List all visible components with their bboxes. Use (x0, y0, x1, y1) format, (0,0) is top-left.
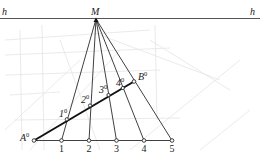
point-4 (142, 139, 146, 143)
point-4-0 (121, 86, 124, 89)
label-4: 4 (142, 143, 147, 154)
point-1 (60, 139, 64, 143)
point-B0 (132, 80, 136, 84)
horizon-label-right: h (250, 6, 255, 17)
background-sketch (5, 25, 250, 150)
perspective-diagram: h h M A0 B0 10 20 30 40 1 2 3 4 5 (0, 0, 265, 160)
point-3 (115, 139, 119, 143)
label-2-0: 20 (81, 93, 89, 105)
vanishing-point-label: M (90, 6, 100, 17)
label-1-0: 10 (59, 107, 67, 119)
label-3: 3 (114, 143, 119, 154)
point-5 (170, 139, 174, 143)
label-A0: A0 (19, 131, 29, 143)
ray-2 (89, 19, 96, 141)
point-2-0 (88, 104, 91, 107)
point-3-0 (107, 93, 110, 96)
label-B0: B0 (138, 70, 147, 82)
horizon-label-left: h (2, 6, 7, 17)
point-2 (87, 139, 91, 143)
label-1: 1 (59, 143, 64, 154)
diagram-canvas: h h M A0 B0 10 20 30 40 1 2 3 4 5 (0, 0, 265, 160)
label-2: 2 (87, 143, 92, 154)
point-A0 (32, 139, 36, 143)
point-1-0 (65, 118, 68, 121)
label-3-0: 30 (98, 83, 107, 95)
label-5: 5 (170, 143, 175, 154)
